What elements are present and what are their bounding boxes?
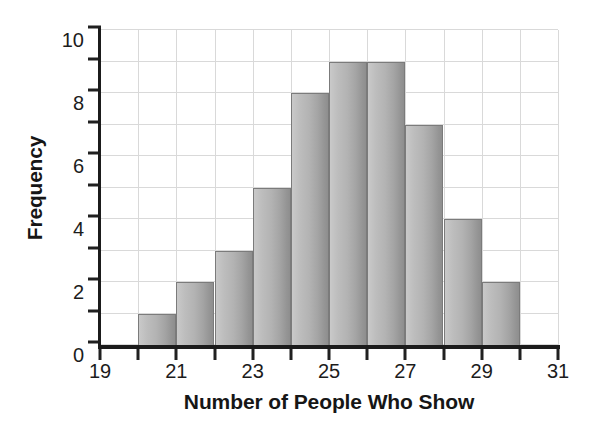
bar: [329, 62, 367, 346]
bar: [253, 188, 291, 346]
histogram-figure: Frequency 0246810 19212325272931 Number …: [0, 0, 601, 431]
x-tick-mark: [99, 349, 102, 360]
y-axis-title: Frequency: [23, 135, 47, 239]
y-axis-line: [98, 28, 101, 348]
bar: [367, 62, 405, 346]
x-tick-label: 23: [242, 361, 264, 381]
x-tick-label: 19: [89, 361, 111, 381]
x-tick-mark: [328, 349, 331, 360]
x-tick-label: 29: [471, 361, 493, 381]
x-tick-mark: [442, 349, 445, 360]
x-tick-mark: [480, 349, 483, 360]
bar: [176, 282, 214, 345]
bar-series: [100, 30, 558, 345]
x-axis-title: Number of People Who Show: [100, 390, 558, 414]
bar: [482, 282, 520, 345]
gridline-vertical: [558, 30, 559, 345]
bar: [291, 93, 329, 345]
bar: [444, 219, 482, 345]
x-tick-mark: [366, 349, 369, 360]
x-axis-tick-labels: 19212325272931: [100, 361, 558, 387]
x-tick-label: 31: [547, 361, 569, 381]
x-tick-mark: [289, 349, 292, 360]
x-tick-mark: [557, 349, 560, 360]
y-axis-tick-labels: 0246810: [48, 30, 84, 345]
x-tick-mark: [404, 349, 407, 360]
bar: [138, 314, 176, 346]
bar: [405, 125, 443, 346]
x-tick-label: 27: [394, 361, 416, 381]
plot-area: [100, 30, 558, 345]
x-tick-mark: [251, 349, 254, 360]
bar: [215, 251, 253, 346]
x-tick-label: 25: [318, 361, 340, 381]
x-tick-mark: [175, 349, 178, 360]
y-axis-title-wrapper: Frequency: [18, 30, 52, 345]
x-tick-mark: [137, 349, 140, 360]
x-tick-mark: [213, 349, 216, 360]
x-tick-label: 21: [165, 361, 187, 381]
x-tick-mark: [518, 349, 521, 360]
